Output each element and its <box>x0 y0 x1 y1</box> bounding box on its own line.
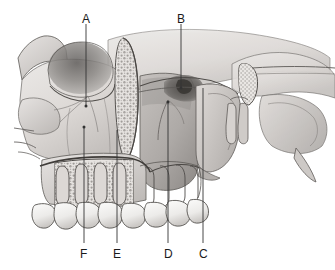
tooth-crown-3 <box>76 202 101 228</box>
skull-anatomy-illustration <box>0 0 335 270</box>
top-fade-wash <box>0 0 335 34</box>
tooth-crown-2 <box>54 203 79 229</box>
pterygoid-prong-right <box>238 103 248 144</box>
label-E: E <box>113 248 121 260</box>
label-A: A <box>82 13 90 25</box>
tooth-crown-4 <box>98 202 123 228</box>
tooth-crown-5 <box>121 203 146 228</box>
skull-bone-group <box>0 0 335 229</box>
tooth-crown-1 <box>32 204 56 229</box>
leader-dot-A <box>85 105 88 108</box>
tooth-crown-8 <box>187 199 209 223</box>
figure-canvas: A B C D E F <box>0 0 335 270</box>
tooth-crown-6 <box>144 202 169 227</box>
label-F: F <box>80 248 88 260</box>
label-D: D <box>164 248 173 260</box>
orbital-cavity <box>48 42 112 94</box>
leader-dot-B <box>180 87 183 90</box>
leader-dot-F <box>83 126 86 129</box>
label-C: C <box>199 248 208 260</box>
tooth-crown-7 <box>166 200 191 226</box>
label-B: B <box>177 13 185 25</box>
pterygoid-prong-left <box>226 103 236 144</box>
leader-dot-D <box>167 101 170 104</box>
